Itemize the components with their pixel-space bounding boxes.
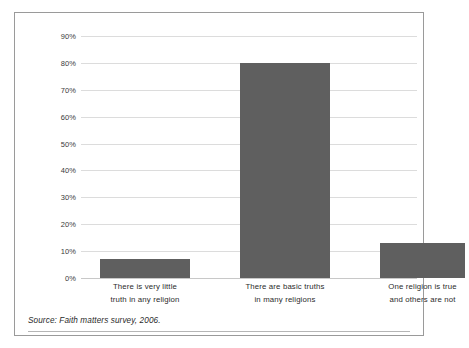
y-axis-tick-label: 60% (50, 112, 76, 121)
y-axis-tick-label: 0% (50, 274, 76, 283)
x-axis-category-label: There are basic truthsin many religions (226, 281, 344, 306)
source-note: Source: Faith matters survey, 2006. (28, 316, 161, 325)
bar (100, 259, 190, 278)
category-label-line: truth in any religion (86, 294, 204, 307)
x-axis-category-label: One religion is trueand others are not (364, 281, 469, 306)
category-label-line: There is very little (86, 281, 204, 294)
x-axis-category-labels: There is very littletruth in any religio… (81, 281, 417, 315)
y-axis-tick-label: 40% (50, 166, 76, 175)
y-axis-tick-label: 70% (50, 85, 76, 94)
category-label-line: in many religions (226, 294, 344, 307)
bar (380, 243, 465, 278)
y-axis-tick-label: 90% (50, 32, 76, 41)
bar-series (81, 36, 417, 278)
category-label-line: One religion is true (364, 281, 469, 294)
y-axis-tick-label: 20% (50, 220, 76, 229)
y-axis-tick-label: 30% (50, 193, 76, 202)
x-axis-category-label: There is very littletruth in any religio… (86, 281, 204, 306)
chart-plot-area: 90%80%70%60%50%40%30%20%10%0% (50, 36, 417, 278)
source-divider (28, 331, 410, 332)
bar (240, 63, 330, 278)
figure-panel: 90%80%70%60%50%40%30%20%10%0% There is v… (14, 12, 424, 336)
axis-baseline (81, 278, 417, 279)
y-axis-tick-label: 50% (50, 139, 76, 148)
category-label-line: There are basic truths (226, 281, 344, 294)
category-label-line: and others are not (364, 294, 469, 307)
y-axis-tick-label: 10% (50, 247, 76, 256)
y-axis-tick-label: 80% (50, 58, 76, 67)
